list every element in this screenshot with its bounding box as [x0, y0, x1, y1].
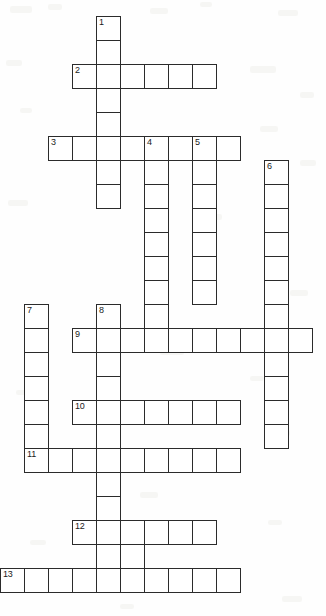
crossword-cell[interactable]: [96, 112, 121, 137]
crossword-cell[interactable]: [192, 400, 217, 425]
crossword-cell[interactable]: [144, 232, 169, 257]
crossword-cell[interactable]: [168, 568, 193, 593]
crossword-cell[interactable]: [192, 160, 217, 185]
crossword-cell[interactable]: [96, 64, 121, 89]
crossword-cell[interactable]: [24, 424, 49, 449]
crossword-cell[interactable]: [144, 184, 169, 209]
crossword-cell[interactable]: [96, 520, 121, 545]
crossword-cell[interactable]: [144, 160, 169, 185]
crossword-cell[interactable]: [264, 304, 289, 329]
crossword-cell[interactable]: [144, 256, 169, 281]
crossword-cell[interactable]: [144, 280, 169, 305]
crossword-cell[interactable]: [216, 448, 241, 473]
crossword-cell[interactable]: [264, 424, 289, 449]
crossword-cell[interactable]: [264, 208, 289, 233]
crossword-cell[interactable]: [144, 64, 169, 89]
crossword-cell[interactable]: [96, 376, 121, 401]
crossword-cell[interactable]: [72, 568, 97, 593]
crossword-cell[interactable]: [216, 568, 241, 593]
crossword-cell[interactable]: [144, 448, 169, 473]
crossword-cell[interactable]: [192, 184, 217, 209]
crossword-cell[interactable]: [144, 304, 169, 329]
crossword-cell-numbered[interactable]: 13: [0, 568, 25, 593]
crossword-cell[interactable]: [96, 352, 121, 377]
crossword-cell[interactable]: [96, 448, 121, 473]
crossword-cell[interactable]: [144, 208, 169, 233]
crossword-cell[interactable]: [192, 280, 217, 305]
crossword-cell[interactable]: [264, 280, 289, 305]
crossword-cell-numbered[interactable]: 3: [48, 136, 73, 161]
crossword-cell[interactable]: [120, 400, 145, 425]
crossword-cell[interactable]: [168, 520, 193, 545]
crossword-cell[interactable]: [24, 376, 49, 401]
crossword-cell[interactable]: [96, 40, 121, 65]
crossword-cell[interactable]: [144, 568, 169, 593]
crossword-cell[interactable]: [24, 352, 49, 377]
crossword-cell[interactable]: [144, 400, 169, 425]
crossword-cell[interactable]: [168, 136, 193, 161]
crossword-cell-numbered[interactable]: 9: [72, 328, 97, 353]
crossword-cell[interactable]: [24, 568, 49, 593]
crossword-cell[interactable]: [192, 328, 217, 353]
crossword-cell[interactable]: [24, 328, 49, 353]
crossword-cell[interactable]: [264, 400, 289, 425]
crossword-cell[interactable]: [96, 472, 121, 497]
crossword-cell-numbered[interactable]: 10: [72, 400, 97, 425]
crossword-cell[interactable]: [96, 88, 121, 113]
crossword-cell[interactable]: [96, 400, 121, 425]
crossword-cell[interactable]: [264, 376, 289, 401]
crossword-cell[interactable]: [96, 568, 121, 593]
crossword-cell[interactable]: [264, 184, 289, 209]
crossword-cell[interactable]: [96, 184, 121, 209]
crossword-cell[interactable]: [48, 448, 73, 473]
crossword-cell[interactable]: [192, 568, 217, 593]
crossword-cell-numbered[interactable]: 11: [24, 448, 49, 473]
crossword-cell[interactable]: [168, 448, 193, 473]
crossword-cell-numbered[interactable]: 4: [144, 136, 169, 161]
crossword-cell[interactable]: [120, 520, 145, 545]
crossword-cell[interactable]: [216, 136, 241, 161]
crossword-cell-numbered[interactable]: 12: [72, 520, 97, 545]
crossword-cell[interactable]: [72, 136, 97, 161]
crossword-cell[interactable]: [96, 544, 121, 569]
crossword-cell[interactable]: [120, 64, 145, 89]
crossword-cell-numbered[interactable]: 6: [264, 160, 289, 185]
crossword-cell[interactable]: [240, 328, 265, 353]
crossword-cell[interactable]: [192, 208, 217, 233]
crossword-cell[interactable]: [192, 520, 217, 545]
crossword-cell[interactable]: [120, 328, 145, 353]
crossword-cell[interactable]: [96, 328, 121, 353]
crossword-cell[interactable]: [216, 328, 241, 353]
crossword-cell[interactable]: [96, 424, 121, 449]
crossword-cell[interactable]: [96, 496, 121, 521]
crossword-cell[interactable]: [144, 520, 169, 545]
crossword-cell[interactable]: [72, 448, 97, 473]
crossword-cell-numbered[interactable]: 8: [96, 304, 121, 329]
crossword-cell[interactable]: [168, 400, 193, 425]
crossword-cell[interactable]: [96, 160, 121, 185]
crossword-cell[interactable]: [24, 400, 49, 425]
crossword-cell-numbered[interactable]: 7: [24, 304, 49, 329]
crossword-cell[interactable]: [288, 328, 313, 353]
crossword-cell[interactable]: [264, 328, 289, 353]
crossword-cell[interactable]: [168, 64, 193, 89]
crossword-cell-numbered[interactable]: 2: [72, 64, 97, 89]
crossword-cell[interactable]: [144, 328, 169, 353]
crossword-cell[interactable]: [168, 328, 193, 353]
crossword-cell[interactable]: [264, 352, 289, 377]
crossword-cell[interactable]: [48, 568, 73, 593]
crossword-cell[interactable]: [192, 64, 217, 89]
crossword-cell[interactable]: [192, 232, 217, 257]
crossword-cell[interactable]: [120, 448, 145, 473]
crossword-cell[interactable]: [192, 256, 217, 281]
crossword-cell[interactable]: [120, 544, 145, 569]
crossword-cell-numbered[interactable]: 5: [192, 136, 217, 161]
crossword-cell[interactable]: [192, 448, 217, 473]
crossword-cell[interactable]: [96, 136, 121, 161]
crossword-cell[interactable]: [120, 568, 145, 593]
crossword-cell[interactable]: [216, 400, 241, 425]
crossword-cell-numbered[interactable]: 1: [96, 16, 121, 41]
crossword-cell[interactable]: [264, 232, 289, 257]
crossword-cell[interactable]: [264, 256, 289, 281]
crossword-cell[interactable]: [120, 136, 145, 161]
